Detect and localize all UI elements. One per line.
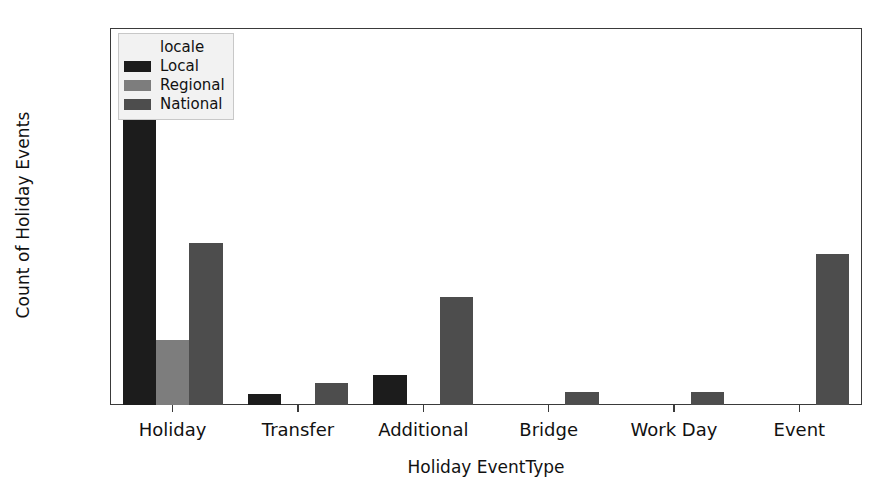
x-axis-tick-label: Holiday (139, 419, 207, 440)
bar (373, 375, 406, 405)
bar (123, 109, 156, 405)
legend-item: National (124, 95, 225, 114)
y-axis-label-text: Count of Holiday Events (13, 112, 33, 319)
bar (156, 340, 189, 405)
x-axis-label-text: Holiday EventType (407, 457, 564, 477)
legend-title: locale (160, 40, 204, 55)
legend-item-label: Regional (160, 78, 225, 93)
legend-item-label: National (160, 97, 223, 112)
x-axis-tick-mark (673, 405, 675, 412)
legend-swatch-icon (124, 99, 151, 110)
x-axis-tick-mark (172, 405, 174, 412)
x-axis-tick-label: Additional (378, 419, 468, 440)
x-axis-label: Holiday EventType (110, 457, 862, 477)
x-axis-tick-mark (799, 405, 801, 412)
legend-item: Local (124, 57, 225, 76)
bar-chart-figure: Count of Holiday Events 0204060801001201… (0, 0, 891, 500)
bar (248, 394, 281, 405)
legend-swatch-icon (124, 80, 151, 91)
bar (315, 383, 348, 405)
bar (565, 392, 598, 405)
x-axis-tick-mark (548, 405, 550, 412)
legend-item: Regional (124, 76, 225, 95)
legend-entries: LocalRegionalNational (124, 57, 225, 114)
legend-item-label: Local (160, 59, 199, 74)
bar (816, 254, 849, 405)
x-axis-tick-label: Transfer (262, 419, 334, 440)
bar (691, 392, 724, 405)
legend-title-row: locale (124, 38, 225, 57)
y-axis-label: Count of Holiday Events (6, 0, 40, 430)
x-axis-tick-label: Event (774, 419, 826, 440)
bar (189, 243, 222, 405)
x-axis-tick-mark (423, 405, 425, 412)
x-axis-tick-label: Bridge (519, 419, 578, 440)
legend: locale LocalRegionalNational (118, 33, 234, 120)
x-axis-tick-label: Work Day (631, 419, 718, 440)
legend-swatch-icon (124, 61, 151, 72)
bar (440, 297, 473, 405)
legend-title-spacer-icon (124, 42, 151, 53)
x-axis-tick-mark (297, 405, 299, 412)
